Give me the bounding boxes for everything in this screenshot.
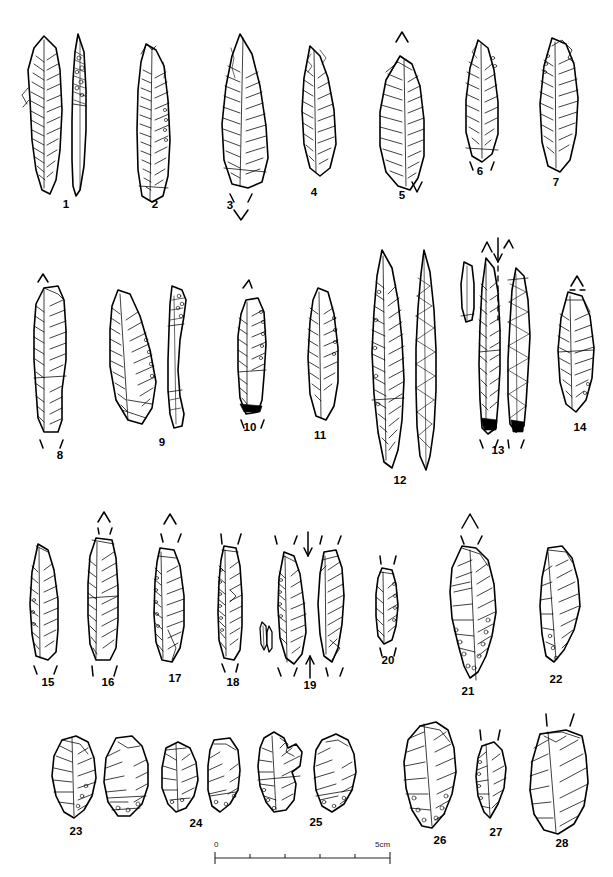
figure-16 [88, 512, 118, 676]
figure-label-19: 19 [304, 680, 317, 692]
artefact-drawings: .o { fill:#ffffff; stroke:#000000; strok… [0, 0, 613, 877]
figure-7 [540, 38, 578, 172]
figure-24-view-b [208, 738, 240, 812]
figure-label-5: 5 [399, 190, 405, 202]
figure-label-21: 21 [462, 686, 475, 698]
figure-label-18: 18 [227, 677, 240, 689]
scale-bar-graphic [215, 852, 390, 864]
scale-bar-end-label: 5cm [375, 841, 390, 849]
figure-18 [218, 534, 242, 672]
figure-label-23: 23 [70, 826, 83, 838]
figure-label-11: 11 [314, 430, 326, 442]
figure-4 [302, 46, 336, 176]
figure-label-7: 7 [553, 177, 559, 189]
figure-28 [530, 714, 588, 834]
figure-10 [238, 280, 266, 428]
figure-label-6: 6 [477, 166, 483, 178]
figure-label-28: 28 [556, 838, 569, 850]
figure-label-3: 3 [227, 200, 233, 212]
figure-label-16: 16 [102, 677, 115, 689]
figure-12-view-b [416, 250, 436, 470]
figure-8 [34, 274, 66, 448]
figure-27 [476, 730, 506, 818]
figure-label-25: 25 [310, 817, 323, 829]
figure-1-view-a [22, 36, 62, 194]
figure-11 [308, 288, 338, 420]
figure-17 [154, 514, 184, 662]
lithic-artefact-plate: • • • • • • • • • .o { fill:#ffffff; str… [0, 0, 613, 877]
figure-label-4: 4 [311, 187, 317, 199]
figure-5 [380, 32, 424, 192]
figure-3 [222, 34, 268, 220]
figure-20 [376, 556, 398, 656]
figure-21 [450, 514, 496, 680]
figure-label-2: 2 [152, 199, 158, 211]
figure-19-view-a [260, 552, 306, 664]
figure-label-22: 22 [550, 674, 563, 686]
figure-25-view-a [258, 732, 302, 812]
figure-label-20: 20 [382, 655, 395, 667]
figure-label-26: 26 [434, 835, 447, 847]
figure-label-24: 24 [190, 818, 203, 830]
figure-19-view-b [318, 550, 344, 662]
figure-14 [558, 276, 594, 412]
figure-22 [540, 546, 580, 662]
figure-24-view-a [162, 742, 198, 812]
figure-13-view-b [479, 258, 500, 434]
figure-2 [137, 44, 170, 202]
figure-15 [30, 544, 58, 674]
figure-9-view-a [110, 290, 156, 424]
figure-9-view-b [168, 286, 186, 428]
scale-bar-start-label: 0 [214, 841, 218, 849]
figure-13-view-c [508, 268, 530, 432]
figure-23-view-b [104, 736, 148, 816]
figure-label-17: 17 [169, 673, 182, 685]
figure-label-1: 1 [63, 199, 69, 211]
figure-label-12: 12 [394, 475, 407, 487]
figure-label-15: 15 [42, 677, 55, 689]
figure-label-27: 27 [490, 827, 503, 839]
figure-26 [404, 722, 456, 828]
figure-label-14: 14 [574, 422, 587, 434]
figure-label-8: 8 [57, 450, 63, 462]
figure-1-view-b [72, 34, 86, 196]
figure-25-view-b [314, 734, 356, 812]
figure-6 [466, 40, 498, 170]
figure-13-view-a [461, 262, 474, 322]
figure-label-13: 13 [492, 445, 505, 457]
figure-12-view-a [372, 250, 404, 468]
figure-label-10: 10 [244, 422, 257, 434]
figure-label-9: 9 [159, 437, 165, 449]
figure-23-view-a [52, 736, 96, 818]
